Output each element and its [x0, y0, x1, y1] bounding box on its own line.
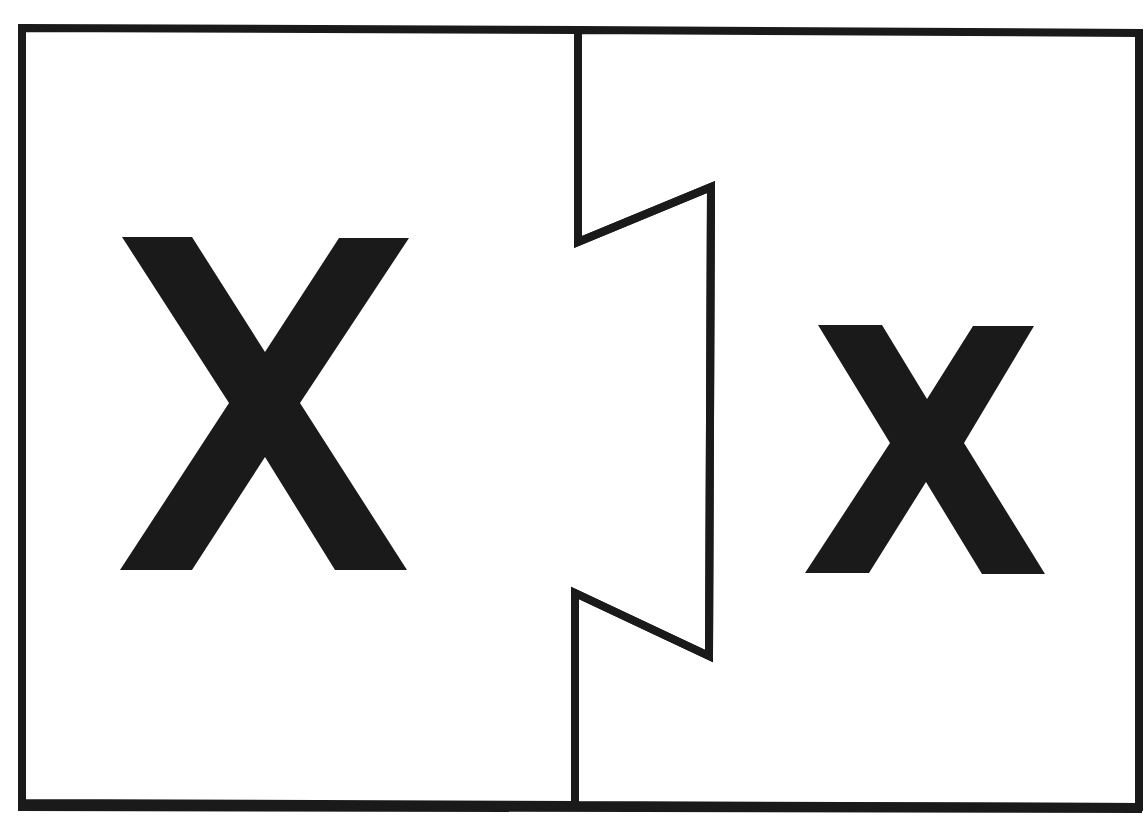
frame-bottom-edge: [18, 806, 1142, 808]
left-puzzle-piece: [22, 28, 711, 805]
puzzle-diagram: [0, 0, 1144, 830]
lowercase-x-glyph: [805, 325, 1045, 574]
left-piece-outline: [22, 28, 711, 805]
